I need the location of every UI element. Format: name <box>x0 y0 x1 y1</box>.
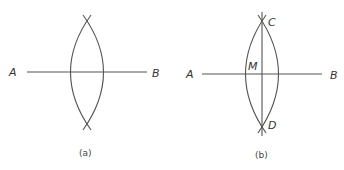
figure-b: A B C D M (b) <box>185 12 338 160</box>
caption-a: (a) <box>79 148 92 158</box>
label-a-point-a: A <box>8 66 17 79</box>
label-b-point-b: B <box>330 69 338 82</box>
construction-diagram: A B (a) A B C D M (b) <box>0 0 344 170</box>
label-b-point-c: C <box>268 16 276 29</box>
label-b-point-a: A <box>185 68 194 81</box>
label-b-point-d: D <box>268 119 276 132</box>
label-b-point-m: M <box>248 60 258 73</box>
label-a-point-b: B <box>152 67 160 80</box>
caption-b: (b) <box>255 150 268 160</box>
figure-a: A B (a) <box>8 15 160 158</box>
